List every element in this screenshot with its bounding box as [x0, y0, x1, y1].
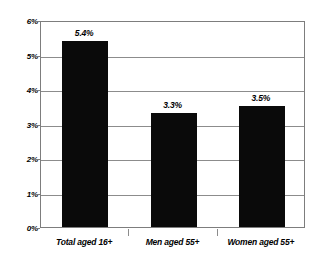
bar	[239, 106, 285, 227]
x-axis-tick-mark	[217, 229, 218, 236]
bar-chart: 0%1%2%3%4%5%6% 5.4%3.3%3.5% Total aged 1…	[0, 0, 321, 261]
bar-value-label: 5.4%	[44, 28, 124, 38]
x-axis-tick-mark	[128, 229, 129, 236]
bar-value-label: 3.3%	[133, 100, 213, 110]
bar	[62, 41, 108, 227]
plot-area	[40, 21, 305, 228]
y-axis-tick-mark	[34, 228, 40, 229]
bar-value-label: 3.5%	[221, 93, 301, 103]
x-axis-category-label: Women aged 55+	[206, 237, 316, 247]
bar	[151, 113, 197, 227]
